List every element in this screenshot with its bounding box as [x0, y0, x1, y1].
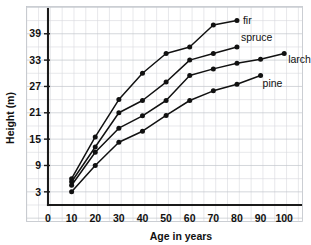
data-point-fir-30 [116, 97, 121, 102]
data-point-fir-40 [140, 71, 145, 76]
data-point-larch-20 [93, 150, 98, 155]
data-point-larch-60 [187, 73, 192, 78]
data-point-pine-70 [211, 88, 216, 93]
x-tick-label: 80 [231, 212, 243, 224]
x-tick-label: 30 [113, 212, 125, 224]
x-tick-label: 90 [255, 212, 267, 224]
data-point-fir-50 [164, 51, 169, 56]
x-tick-label: 70 [207, 212, 219, 224]
data-point-fir-20 [93, 134, 98, 139]
line-chart: 3915212733390102030405060708090100 firsp… [0, 0, 311, 245]
y-tick-label: 39 [29, 27, 41, 39]
data-point-larch-70 [211, 66, 216, 71]
data-point-larch-10 [69, 183, 74, 188]
data-point-spruce-40 [140, 98, 145, 103]
data-point-spruce-60 [187, 58, 192, 63]
x-tick-label: 100 [275, 212, 293, 224]
y-tick-label: 9 [35, 159, 41, 171]
data-point-larch-100 [282, 51, 287, 56]
data-point-larch-90 [258, 57, 263, 62]
data-point-spruce-50 [164, 80, 169, 85]
data-point-pine-50 [164, 113, 169, 118]
data-point-fir-80 [234, 18, 239, 23]
data-point-larch-50 [164, 98, 169, 103]
data-point-larch-80 [234, 61, 239, 66]
y-tick-label: 33 [29, 54, 41, 66]
x-tick-label: 10 [66, 212, 78, 224]
y-tick-label: 21 [29, 106, 41, 118]
data-point-spruce-20 [93, 145, 98, 150]
data-point-larch-30 [116, 126, 121, 131]
data-point-pine-40 [140, 129, 145, 134]
y-tick-label: 3 [35, 186, 41, 198]
data-point-pine-10 [69, 189, 74, 194]
data-point-pine-80 [234, 82, 239, 87]
data-point-fir-60 [187, 44, 192, 49]
y-axis-title: Height (m) [4, 92, 16, 144]
series-label-larch: larch [288, 53, 311, 65]
series-label-pine: pine [263, 77, 283, 89]
x-tick-label: 20 [89, 212, 101, 224]
data-point-spruce-80 [234, 44, 239, 49]
data-point-pine-30 [116, 140, 121, 145]
chart-container: 3915212733390102030405060708090100 firsp… [0, 0, 311, 245]
series-label-spruce: spruce [241, 31, 273, 43]
x-tick-label: 0 [45, 212, 51, 224]
x-tick-label: 40 [137, 212, 149, 224]
data-point-pine-60 [187, 98, 192, 103]
data-point-fir-70 [211, 22, 216, 27]
data-point-larch-40 [140, 113, 145, 118]
data-point-spruce-30 [116, 110, 121, 115]
data-point-spruce-70 [211, 51, 216, 56]
y-tick-label: 15 [29, 133, 41, 145]
x-tick-label: 60 [184, 212, 196, 224]
x-axis-title: Age in years [150, 230, 213, 242]
y-tick-label: 27 [29, 80, 41, 92]
data-point-pine-20 [93, 163, 98, 168]
series-label-fir: fir [243, 14, 252, 26]
x-tick-label: 50 [160, 212, 172, 224]
